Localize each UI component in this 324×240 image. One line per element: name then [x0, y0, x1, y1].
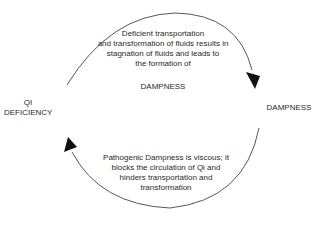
top-arrow-description: Deficient transportation and transformat… [88, 29, 238, 69]
bottom-arrow-description: Pathogenic Dampness is viscous; it block… [96, 153, 236, 193]
node-dampness: DAMPNESS [262, 103, 316, 113]
top-arrowhead-icon [246, 72, 260, 89]
bottom-arrowhead-icon [64, 137, 77, 152]
top-arrow-label: DAMPNESS [118, 82, 208, 92]
node-qi-deficiency: QI DEFICIENCY [4, 98, 52, 118]
